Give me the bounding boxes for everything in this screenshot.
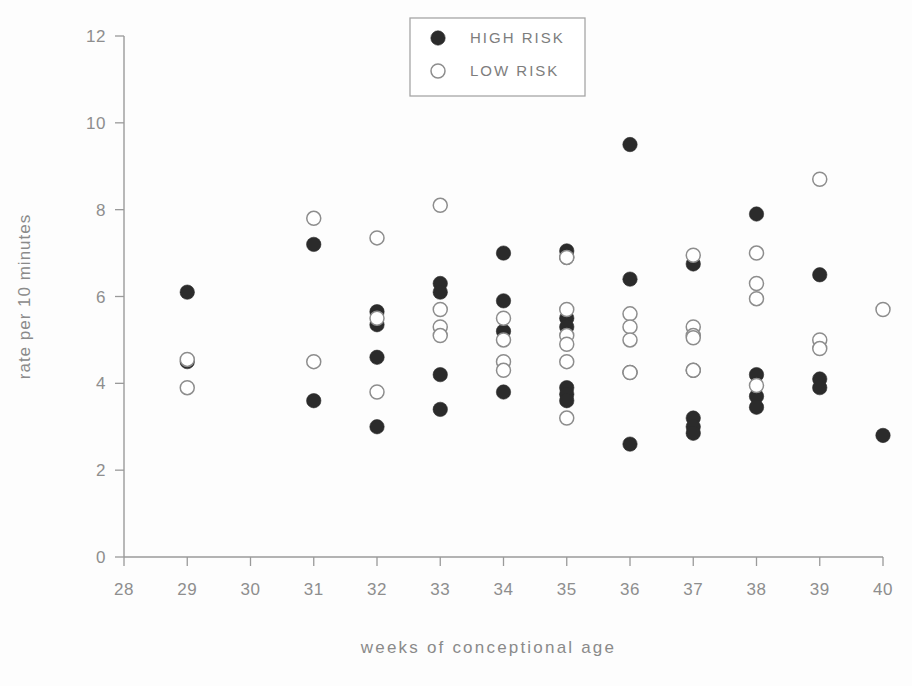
y-tick-label: 10 (86, 114, 106, 133)
plot-area: 02468101228293031323334353637383940weeks… (0, 0, 912, 686)
y-tick-label: 4 (96, 374, 106, 393)
data-point (686, 426, 700, 440)
data-point (433, 329, 447, 343)
data-point (307, 211, 321, 225)
data-point (623, 272, 637, 286)
data-point (370, 311, 384, 325)
data-point (307, 394, 321, 408)
data-point (307, 237, 321, 251)
data-point (750, 292, 764, 306)
x-tick-label: 37 (683, 580, 703, 599)
data-point (876, 303, 890, 317)
data-point (623, 307, 637, 321)
data-point (497, 311, 511, 325)
data-point (686, 331, 700, 345)
data-point (307, 355, 321, 369)
data-point (750, 379, 764, 393)
y-axis-title: rate per 10 minutes (15, 214, 34, 379)
data-point (560, 337, 574, 351)
data-point (497, 363, 511, 377)
data-point (496, 385, 510, 399)
x-tick-label: 30 (241, 580, 261, 599)
legend-marker-open-circle-icon (431, 64, 445, 78)
x-tick-label: 39 (810, 580, 830, 599)
data-point (813, 342, 827, 356)
data-point (749, 207, 763, 221)
data-point (623, 137, 637, 151)
legend-label: HIGH RISK (470, 29, 565, 46)
data-point (686, 363, 700, 377)
chart-svg: 02468101228293031323334353637383940weeks… (0, 0, 912, 686)
x-tick-label: 31 (304, 580, 324, 599)
data-point (560, 303, 574, 317)
x-tick-label: 29 (177, 580, 197, 599)
series-low-risk (180, 172, 890, 425)
y-tick-label: 0 (96, 548, 106, 567)
scatter-plot-figure: 02468101228293031323334353637383940weeks… (0, 0, 912, 686)
x-tick-label: 38 (747, 580, 767, 599)
data-point (750, 276, 764, 290)
series-high-risk (180, 137, 890, 451)
data-point (749, 400, 763, 414)
data-point (876, 428, 890, 442)
x-tick-label: 32 (367, 580, 387, 599)
data-point (623, 365, 637, 379)
data-point (433, 402, 447, 416)
data-point (370, 350, 384, 364)
data-point (496, 246, 510, 260)
data-point (433, 198, 447, 212)
y-tick-label: 8 (96, 201, 106, 220)
data-point (813, 268, 827, 282)
legend-label: LOW RISK (470, 62, 559, 79)
data-point (370, 231, 384, 245)
data-point (813, 172, 827, 186)
data-point (433, 303, 447, 317)
data-point (560, 394, 574, 408)
y-tick-label: 12 (86, 27, 106, 46)
x-tick-label: 28 (114, 580, 134, 599)
x-tick-label: 40 (873, 580, 893, 599)
data-point (370, 420, 384, 434)
data-point (497, 333, 511, 347)
x-tick-label: 33 (430, 580, 450, 599)
data-point (813, 380, 827, 394)
data-point (180, 352, 194, 366)
data-point (750, 246, 764, 260)
data-point (686, 248, 700, 262)
data-point (496, 294, 510, 308)
legend-marker-filled-circle-icon (431, 31, 445, 45)
y-tick-label: 2 (96, 461, 106, 480)
data-point (623, 320, 637, 334)
data-point (433, 285, 447, 299)
data-point (433, 367, 447, 381)
data-point (560, 355, 574, 369)
x-tick-label: 36 (620, 580, 640, 599)
x-tick-label: 35 (557, 580, 577, 599)
data-point (180, 285, 194, 299)
data-point (180, 381, 194, 395)
data-point (623, 333, 637, 347)
data-point (560, 250, 574, 264)
data-point (560, 411, 574, 425)
data-point (370, 385, 384, 399)
y-tick-label: 6 (96, 288, 106, 307)
data-point (623, 437, 637, 451)
x-tick-label: 34 (494, 580, 514, 599)
x-axis-title: weeks of conceptional age (360, 638, 616, 657)
